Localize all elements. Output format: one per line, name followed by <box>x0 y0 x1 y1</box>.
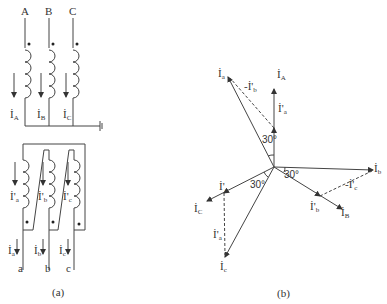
current-IC: İC <box>63 108 72 122</box>
terminal-a: a <box>18 262 23 274</box>
label-IC: İC <box>194 202 203 216</box>
terminal-B: B <box>45 5 52 17</box>
polarity-dot <box>52 221 55 224</box>
current-IA: İA <box>10 108 19 122</box>
label-Ia-prime: İ'a <box>278 102 288 116</box>
terminal-b: b <box>45 262 51 274</box>
current-Ib: İb <box>34 244 42 258</box>
transformer-diagram: A B C İA İB İC İ'a İ'b İ'c İa İb İc a b … <box>0 0 387 304</box>
angle-label: 30° <box>262 134 277 145</box>
angle-label: 30° <box>284 169 299 180</box>
primary-winding-A <box>25 18 31 126</box>
terminal-A: A <box>21 5 29 17</box>
label-IB: İB <box>341 206 350 220</box>
caption-a: (a) <box>52 286 65 299</box>
primary-winding-C <box>73 18 79 126</box>
figure-a-labels: A B C İA İB İC İ'a İ'b İ'c İa İb İc a b … <box>8 5 76 299</box>
current-Ib-prime: İ'b <box>38 190 48 204</box>
current-Ic-prime: İ'c <box>63 190 72 204</box>
primary-winding-B <box>49 18 55 126</box>
label-neg-Ib-prime: -İ'b <box>244 80 257 94</box>
figure-a <box>14 18 102 270</box>
terminal-c: c <box>66 262 71 274</box>
polarity-dot <box>78 223 81 226</box>
label-Ic-prime: İ'c <box>219 180 228 194</box>
label-Ia: İa <box>218 67 226 81</box>
label-Ic: İc <box>220 260 227 274</box>
polarity-dot <box>26 221 29 224</box>
terminal-C: C <box>69 5 76 17</box>
polarity-dot <box>28 43 31 46</box>
figure-b <box>207 77 373 257</box>
secondary-delta <box>23 144 85 270</box>
current-IB: İB <box>37 108 46 122</box>
phasor-neg-Ia-prime <box>224 193 225 255</box>
polarity-dot <box>52 43 55 46</box>
label-neg-Ic-prime: -İ'c <box>345 178 357 192</box>
label-Ib: İb <box>374 162 382 176</box>
label-Ib-prime: İ'b <box>310 200 320 214</box>
current-Ic: İc <box>59 244 66 258</box>
current-Ia: İa <box>8 244 16 258</box>
figure-b-labels: İA İa -İ'b İ'a İb -İ'c İ'b İB İ'c İC İ'a… <box>194 67 382 300</box>
angle-label: 30° <box>250 179 265 190</box>
current-Ia-prime: İ'a <box>10 190 20 204</box>
caption-b: (b) <box>277 287 290 300</box>
polarity-dot <box>76 43 79 46</box>
label-IA: İA <box>277 68 286 82</box>
label-neg-Ia-prime: İ'a <box>213 228 223 242</box>
